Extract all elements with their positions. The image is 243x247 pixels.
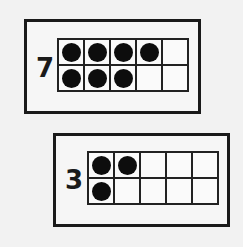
count-label: 3 — [65, 167, 83, 193]
counter-dot-icon — [114, 69, 133, 88]
count-label: 7 — [36, 55, 54, 81]
ten-frame-cell — [114, 152, 140, 178]
ten-frame-cell — [136, 39, 162, 65]
counter-dot-icon — [88, 69, 107, 88]
counter-dot-icon — [62, 43, 81, 62]
ten-frame-grid — [57, 38, 189, 92]
counter-dot-icon — [62, 69, 81, 88]
ten-frame-cell — [58, 65, 84, 91]
ten-frame-cell — [136, 65, 162, 91]
ten-frame-cell — [162, 65, 188, 91]
counter-dot-icon — [88, 43, 107, 62]
ten-frame-cell — [88, 178, 114, 204]
ten-frame-cell — [88, 152, 114, 178]
ten-frame-cell — [192, 178, 218, 204]
counter-dot-icon — [140, 43, 159, 62]
ten-frame-cell — [140, 178, 166, 204]
ten-frame-cell — [110, 39, 136, 65]
ten-frame-cell — [84, 65, 110, 91]
ten-frame-cell — [58, 39, 84, 65]
counter-dot-icon — [114, 43, 133, 62]
ten-frame-cell — [166, 178, 192, 204]
counter-dot-icon — [118, 156, 137, 175]
ten-frame-cell — [114, 178, 140, 204]
ten-frame-cell — [140, 152, 166, 178]
ten-frame-cell — [162, 39, 188, 65]
ten-frame-cell — [84, 39, 110, 65]
ten-frame-card-7: 7 — [24, 19, 201, 114]
ten-frame-card-3: 3 — [53, 133, 230, 227]
counter-dot-icon — [92, 156, 111, 175]
ten-frame-cell — [110, 65, 136, 91]
ten-frame-grid — [87, 151, 219, 205]
ten-frame-cell — [192, 152, 218, 178]
ten-frame-cell — [166, 152, 192, 178]
counter-dot-icon — [92, 182, 111, 201]
